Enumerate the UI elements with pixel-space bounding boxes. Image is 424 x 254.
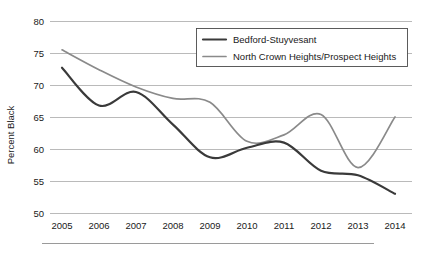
- data-series: [62, 50, 395, 194]
- y-tick-label-50: 50: [33, 208, 44, 219]
- x-axis-tick-labels: 2005200620072008200920102011201220132014: [51, 220, 405, 231]
- y-tick-label-60: 60: [33, 144, 44, 155]
- y-tick-label-65: 65: [33, 112, 44, 123]
- legend-label-north-crown-heights: North Crown Heights/Prospect Heights: [233, 51, 396, 62]
- x-tick-label-2010: 2010: [236, 220, 257, 231]
- chart-legend: Bedford-Stuyvesant North Crown Heights/P…: [197, 29, 408, 67]
- x-tick-label-2009: 2009: [199, 220, 220, 231]
- x-tick-label-2007: 2007: [125, 220, 146, 231]
- x-tick-label-2008: 2008: [162, 220, 183, 231]
- x-tick-label-2014: 2014: [384, 220, 405, 231]
- y-tick-label-75: 75: [33, 48, 44, 59]
- y-axis-tick-labels: 50556065707580: [33, 16, 44, 219]
- y-tick-label-70: 70: [33, 80, 44, 91]
- y-axis-title: Percent Black: [5, 105, 16, 164]
- y-tick-label-55: 55: [33, 176, 44, 187]
- series-line-bedford-stuyvesant: [62, 68, 395, 194]
- x-tick-label-2011: 2011: [274, 220, 294, 231]
- x-tick-label-2013: 2013: [347, 220, 368, 231]
- chart-container: 50556065707580 2005200620072008200920102…: [0, 0, 424, 254]
- line-chart: 50556065707580 2005200620072008200920102…: [0, 0, 424, 254]
- legend-label-bedford-stuyvesant: Bedford-Stuyvesant: [233, 34, 317, 45]
- x-tick-label-2005: 2005: [51, 220, 72, 231]
- x-tick-label-2006: 2006: [88, 220, 109, 231]
- x-tick-label-2012: 2012: [310, 220, 331, 231]
- y-tick-label-80: 80: [33, 16, 44, 27]
